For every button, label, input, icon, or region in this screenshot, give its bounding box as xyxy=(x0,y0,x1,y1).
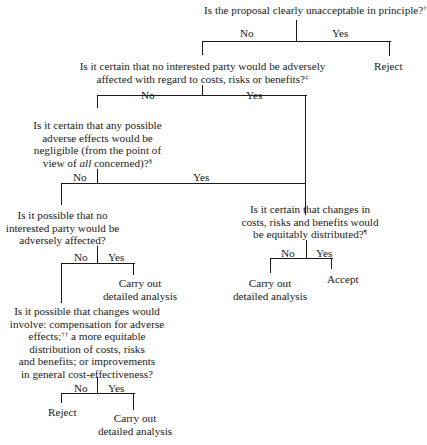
branch-label-yes: Yes xyxy=(108,251,124,263)
question-2-line: affected with regard to costs, risks or … xyxy=(96,73,305,85)
connector xyxy=(270,258,333,259)
connector xyxy=(97,95,307,96)
question-5-line: costs, risks and benefits would xyxy=(225,216,395,229)
connector xyxy=(306,240,307,259)
connector xyxy=(296,20,297,42)
connector xyxy=(97,246,98,264)
branch-label-no: No xyxy=(240,27,254,39)
connector xyxy=(97,95,98,108)
outcome-detailed-analysis: Carry out detailed analysis xyxy=(100,277,180,302)
connector xyxy=(389,41,390,56)
question-3-line: concerned)? xyxy=(91,157,148,169)
footnote-mark: ¶ xyxy=(364,228,367,236)
question-2-line: Is it certain that no interested party w… xyxy=(70,60,335,73)
outcome-line: detailed analysis xyxy=(230,290,310,303)
outcome-detailed-analysis: Carry out detailed analysis xyxy=(95,412,175,437)
question-5-line: Is it certain that changes in xyxy=(225,203,395,216)
question-4: Is it possible that no interested party … xyxy=(5,209,120,247)
connector xyxy=(61,393,135,394)
connector xyxy=(202,41,203,55)
question-6: Is it possible that changes would involv… xyxy=(2,305,172,380)
question-3-line: view of xyxy=(43,157,80,169)
emphasis: all xyxy=(79,157,91,169)
connector xyxy=(97,169,98,184)
question-2: Is it certain that no interested party w… xyxy=(70,60,335,85)
branch-label-yes: Yes xyxy=(332,27,348,39)
question-6-line: distribution of costs, risks xyxy=(2,343,172,356)
outcome-line: Carry out xyxy=(100,277,180,290)
connector xyxy=(61,183,306,184)
connector xyxy=(61,393,62,403)
connector xyxy=(61,263,62,303)
outcome-accept: Accept xyxy=(327,273,359,285)
footnote-mark: ‡ xyxy=(305,73,309,81)
outcome-line: detailed analysis xyxy=(100,290,180,303)
question-3-line: negligible (from the point of xyxy=(30,144,165,157)
branch-label-no: No xyxy=(73,171,87,183)
outcome-reject: Reject xyxy=(374,60,403,72)
connector xyxy=(270,258,271,273)
question-6-line: effects; xyxy=(28,330,61,342)
question-3-line: Is it certain that any possible xyxy=(30,119,165,132)
outcome-line: Carry out xyxy=(95,412,175,425)
branch-label-no: No xyxy=(74,251,88,263)
question-6-line: in general cost-effectiveness? xyxy=(2,368,172,381)
question-3: Is it certain that any possible adverse … xyxy=(30,119,165,169)
question-3-line: adverse effects would be xyxy=(30,132,165,145)
question-1-text: Is the proposal clearly unacceptable in … xyxy=(204,4,423,16)
question-6-line: a more equitable xyxy=(68,330,145,342)
connector xyxy=(61,183,62,205)
branch-label-yes: Yes xyxy=(193,171,209,183)
outcome-reject: Reject xyxy=(48,406,77,418)
outcome-line: Carry out xyxy=(230,277,310,290)
question-1: Is the proposal clearly unacceptable in … xyxy=(204,4,418,17)
connector xyxy=(61,263,135,264)
connector xyxy=(331,258,332,269)
question-4-line: interested party would be xyxy=(5,222,120,235)
connector xyxy=(133,393,134,410)
question-5: Is it certain that changes in costs, ris… xyxy=(225,203,395,241)
connector xyxy=(97,377,98,394)
question-6-line: Is it possible that changes would xyxy=(2,305,172,318)
question-6-line: involve: compensation for adverse xyxy=(2,318,172,331)
outcome-detailed-analysis: Carry out detailed analysis xyxy=(230,277,310,302)
outcome-line: detailed analysis xyxy=(95,425,175,438)
footnote-mark: § xyxy=(149,157,153,165)
connector xyxy=(133,263,134,275)
connector xyxy=(305,95,306,215)
footnote-mark: † xyxy=(423,4,427,12)
question-5-line: be equitably distributed? xyxy=(253,228,364,240)
question-6-line: and benefits; or improvements xyxy=(2,355,172,368)
connector xyxy=(202,41,391,42)
question-4-line: adversely affected? xyxy=(5,234,120,247)
question-4-line: Is it possible that no xyxy=(5,209,120,222)
